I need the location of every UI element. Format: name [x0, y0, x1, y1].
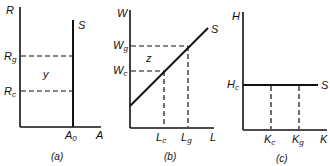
panel-b-tick-lg: Lg [181, 131, 192, 145]
panel-a-area-label: y [42, 68, 50, 80]
panel-b-area-label: z [145, 52, 152, 64]
panel-c-tick-kg: Kg [292, 133, 304, 147]
panel-a: R A S Rg Rc A0 y (a) [4, 4, 103, 162]
panel-b-tick-wg: Wg [113, 39, 128, 53]
panel-c-caption: (c) [276, 153, 288, 164]
panel-a-tick-a0: A0 [64, 129, 77, 143]
panel-b-caption: (b) [164, 151, 176, 162]
panel-c-x-axis-label: K [320, 133, 328, 145]
panel-a-tick-rg: Rg [4, 50, 17, 64]
panel-a-y-axis-label: R [6, 4, 14, 16]
panel-b-x-axis-label: L [210, 131, 216, 143]
panel-a-curve-label: S [78, 19, 86, 31]
panel-c-y-axis-label: H [232, 10, 240, 22]
panel-c-tick-kc: Kc [264, 133, 275, 147]
panel-a-tick-rc: Rc [4, 85, 16, 99]
panel-c-curve-label: S [321, 79, 329, 91]
panel-a-caption: (a) [51, 151, 63, 162]
panel-a-x-axis-label: A [95, 129, 103, 141]
panel-b-y-axis-label: W [117, 7, 129, 19]
supply-curves-diagram: R A S Rg Rc A0 y (a) W L S Wg Wc Lc Lg z… [0, 0, 330, 166]
panel-c: H K S Hc Kc Kg (c) [227, 10, 329, 164]
panel-c-tick-hc: Hc [227, 78, 239, 92]
panel-b-tick-wc: Wc [113, 64, 127, 78]
panel-b-supply-curve [130, 28, 208, 106]
panel-b-curve-label: S [211, 23, 219, 35]
panel-b-tick-lc: Lc [156, 131, 166, 145]
panel-b: W L S Wg Wc Lc Lg z (b) [113, 7, 219, 162]
